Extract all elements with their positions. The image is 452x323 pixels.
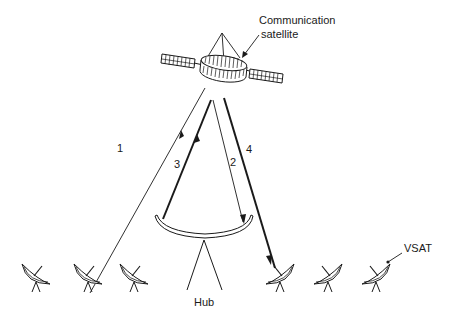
- hub-antenna: [155, 215, 253, 290]
- vsat-terminal: [74, 264, 102, 292]
- satellite-label-line2: satellite: [261, 28, 298, 40]
- vsat-terminal: [120, 264, 148, 292]
- solar-panel-right: [245, 69, 283, 83]
- vsat-terminal: [362, 264, 390, 292]
- link-3-hub-to-satellite: [163, 100, 211, 219]
- link-1-label: 1: [117, 142, 123, 154]
- satellite-label-leader-arrow: [242, 35, 259, 58]
- link-4-label: 4: [246, 143, 252, 155]
- vsat-label: VSAT: [404, 242, 432, 254]
- link-3-label: 3: [174, 158, 180, 170]
- vsat-network-diagram: Communication satellite 1 3 2 4 Hub: [0, 0, 452, 323]
- satellite-body: [200, 53, 248, 82]
- link-1-vsat-to-satellite: [90, 88, 205, 293]
- vsat-terminal: [22, 264, 50, 292]
- link-2-label: 2: [230, 156, 236, 168]
- vsat-terminal: [314, 264, 342, 292]
- communication-satellite: [161, 33, 283, 83]
- link-4-satellite-to-vsat: [224, 98, 275, 268]
- vsat-terminal: [266, 264, 294, 292]
- hub-label: Hub: [194, 296, 214, 308]
- satellite-label-line1: Communication: [259, 14, 335, 26]
- vsat-label-leader-arrow: [386, 253, 402, 264]
